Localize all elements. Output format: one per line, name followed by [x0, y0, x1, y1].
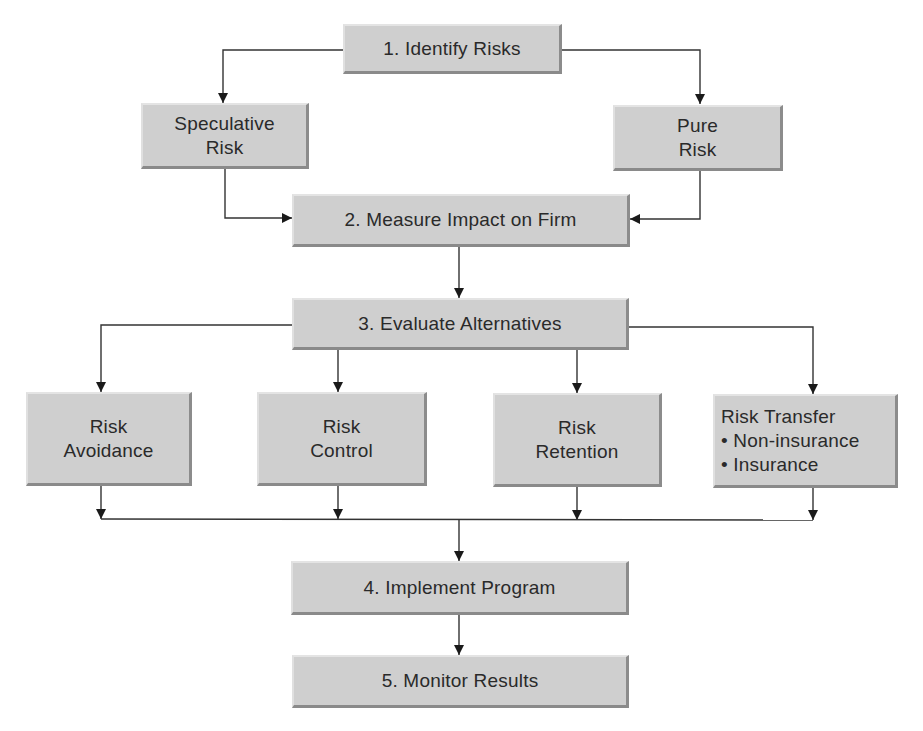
node-label: 1. Identify Risks — [383, 37, 521, 61]
node-label: 2. Measure Impact on Firm — [344, 208, 576, 232]
node-risk-transfer: Risk Transfer • Non-insurance • Insuranc… — [713, 394, 898, 488]
node-label-line2: Avoidance — [63, 439, 153, 463]
connector-lines — [0, 0, 923, 731]
node-label-line2: Control — [310, 439, 373, 463]
node-speculative-risk: Speculative Risk — [141, 103, 309, 169]
node-label-line1: Speculative — [174, 112, 274, 136]
edge-speculative-measure — [225, 168, 292, 218]
merge-line — [101, 519, 813, 520]
node-evaluate-alternatives: 3. Evaluate Alternatives — [292, 298, 629, 350]
node-label-line1: Risk — [558, 416, 596, 440]
node-label-line1: Pure — [677, 114, 718, 138]
node-label: 3. Evaluate Alternatives — [358, 312, 561, 336]
node-identify-risks: 1. Identify Risks — [343, 24, 562, 74]
edge-identify-pure — [562, 50, 700, 104]
node-pure-risk: Pure Risk — [613, 105, 783, 171]
node-label-line1: Risk Transfer — [721, 405, 836, 429]
node-risk-avoidance: Risk Avoidance — [26, 392, 192, 486]
node-label-line1: Risk — [323, 415, 361, 439]
node-label-line3: • Insurance — [721, 453, 819, 477]
node-monitor-results: 5. Monitor Results — [292, 655, 629, 708]
node-label-line2: Risk — [679, 138, 717, 162]
node-risk-control: Risk Control — [257, 392, 427, 486]
node-implement-program: 4. Implement Program — [291, 561, 629, 615]
node-label: 4. Implement Program — [364, 576, 556, 600]
edge-evaluate-avoidance — [101, 325, 292, 392]
node-label-line2: Risk — [206, 136, 244, 160]
node-label-line2: • Non-insurance — [721, 429, 860, 453]
node-label: 5. Monitor Results — [382, 669, 539, 693]
node-measure-impact: 2. Measure Impact on Firm — [292, 194, 630, 247]
edge-pure-measure — [630, 170, 700, 219]
edge-evaluate-transfer — [629, 327, 813, 394]
node-risk-retention: Risk Retention — [493, 393, 662, 487]
risk-management-flowchart: 1. Identify Risks Speculative Risk Pure … — [0, 0, 923, 731]
node-label-line1: Risk — [90, 415, 128, 439]
edge-identify-speculative — [223, 50, 343, 103]
node-label-line2: Retention — [535, 440, 618, 464]
